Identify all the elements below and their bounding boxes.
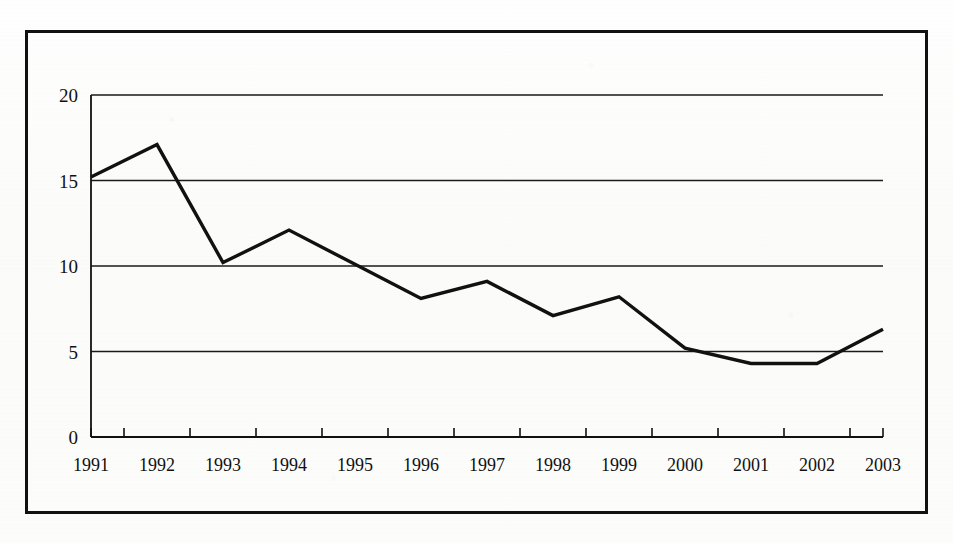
x-tick-label: 1992 xyxy=(139,455,175,475)
x-tick-label: 2001 xyxy=(733,455,769,475)
line-chart: 05101520 1991199219931994199519961997199… xyxy=(28,33,925,511)
x-tick-label: 1993 xyxy=(205,455,241,475)
x-tick-label: 1994 xyxy=(271,455,307,475)
x-tick-label: 1997 xyxy=(469,455,505,475)
x-tick-label: 1999 xyxy=(601,455,637,475)
y-tick-label: 10 xyxy=(59,256,78,277)
x-tick-label: 1995 xyxy=(337,455,373,475)
y-tick-label: 0 xyxy=(69,427,79,448)
y-tick-label: 5 xyxy=(69,342,79,363)
x-tick-label: 1996 xyxy=(403,455,439,475)
scanned-page: 05101520 1991199219931994199519961997199… xyxy=(0,0,953,543)
figure-border: 05101520 1991199219931994199519961997199… xyxy=(25,30,928,514)
x-tick-label: 1991 xyxy=(73,455,109,475)
x-axis-ticks xyxy=(91,428,883,437)
y-tick-label: 20 xyxy=(59,85,78,106)
x-tick-label: 2003 xyxy=(865,455,901,475)
data-series-line xyxy=(91,145,883,364)
x-tick-label: 2000 xyxy=(667,455,703,475)
gridlines xyxy=(91,95,883,352)
y-axis-tick-labels: 05101520 xyxy=(59,85,78,448)
y-tick-label: 15 xyxy=(59,171,78,192)
x-axis-tick-labels: 1991199219931994199519961997199819992000… xyxy=(73,455,901,475)
x-tick-label: 1998 xyxy=(535,455,571,475)
x-tick-label: 2002 xyxy=(799,455,835,475)
